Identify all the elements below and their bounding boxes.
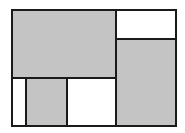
region-top-right-small [115,9,177,40]
region-bottom-middle-right [66,77,117,127]
region-right-tall [115,38,177,127]
region-top-left-large [11,9,117,79]
region-bottom-middle-left [25,77,68,127]
